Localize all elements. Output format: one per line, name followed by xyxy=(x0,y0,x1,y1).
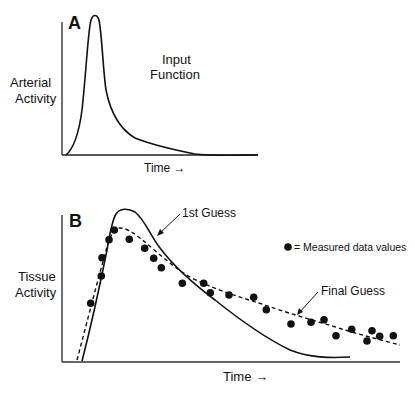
panel-a-xlabel: Time → xyxy=(144,161,186,175)
data-point xyxy=(287,320,295,328)
data-point xyxy=(363,337,371,345)
data-point xyxy=(320,316,328,324)
legend-marker-icon xyxy=(284,243,292,251)
final-guess-label: Final Guess xyxy=(321,284,385,298)
data-point xyxy=(348,326,356,334)
panel-b-xlabel: Time → xyxy=(223,369,268,384)
data-point xyxy=(141,245,149,253)
first-guess-curve xyxy=(82,209,350,361)
data-point xyxy=(332,332,340,340)
data-point xyxy=(111,226,119,234)
data-point xyxy=(200,280,208,288)
panel-b-letter: B xyxy=(69,211,82,231)
data-point xyxy=(368,327,376,335)
data-point xyxy=(87,300,95,308)
data-point xyxy=(250,294,258,302)
data-point xyxy=(150,254,158,262)
data-point xyxy=(207,289,215,297)
data-point xyxy=(390,332,398,340)
panel-b-ylabel-line2: Activity xyxy=(15,285,57,300)
data-point xyxy=(126,236,134,244)
data-point xyxy=(105,236,113,244)
data-point xyxy=(179,280,187,288)
first-guess-pointer xyxy=(159,214,180,234)
data-point xyxy=(307,319,315,327)
first-guess-label: 1st Guess xyxy=(182,206,236,220)
panel-a-ylabel-line2: Activity xyxy=(15,91,57,106)
figure: A Arterial Activity Input Function Time … xyxy=(0,0,415,393)
panel-a: A Arterial Activity Input Function Time … xyxy=(10,13,258,175)
input-function-label-line2: Function xyxy=(150,67,200,82)
final-guess-pointer xyxy=(299,292,318,313)
data-point xyxy=(98,272,106,280)
data-point xyxy=(263,306,271,314)
panel-a-letter: A xyxy=(68,13,81,33)
data-point xyxy=(98,254,106,262)
data-point xyxy=(376,333,384,341)
panel-b-ylabel-line1: Tissue xyxy=(18,269,56,284)
data-point xyxy=(158,264,166,272)
data-point xyxy=(225,291,233,299)
input-function-curve xyxy=(66,16,258,156)
panel-b: B xyxy=(15,206,406,384)
panel-a-ylabel-line1: Arterial xyxy=(10,75,51,90)
input-function-label-line1: Input xyxy=(162,52,191,67)
legend-text: = Measured data values xyxy=(294,241,406,253)
